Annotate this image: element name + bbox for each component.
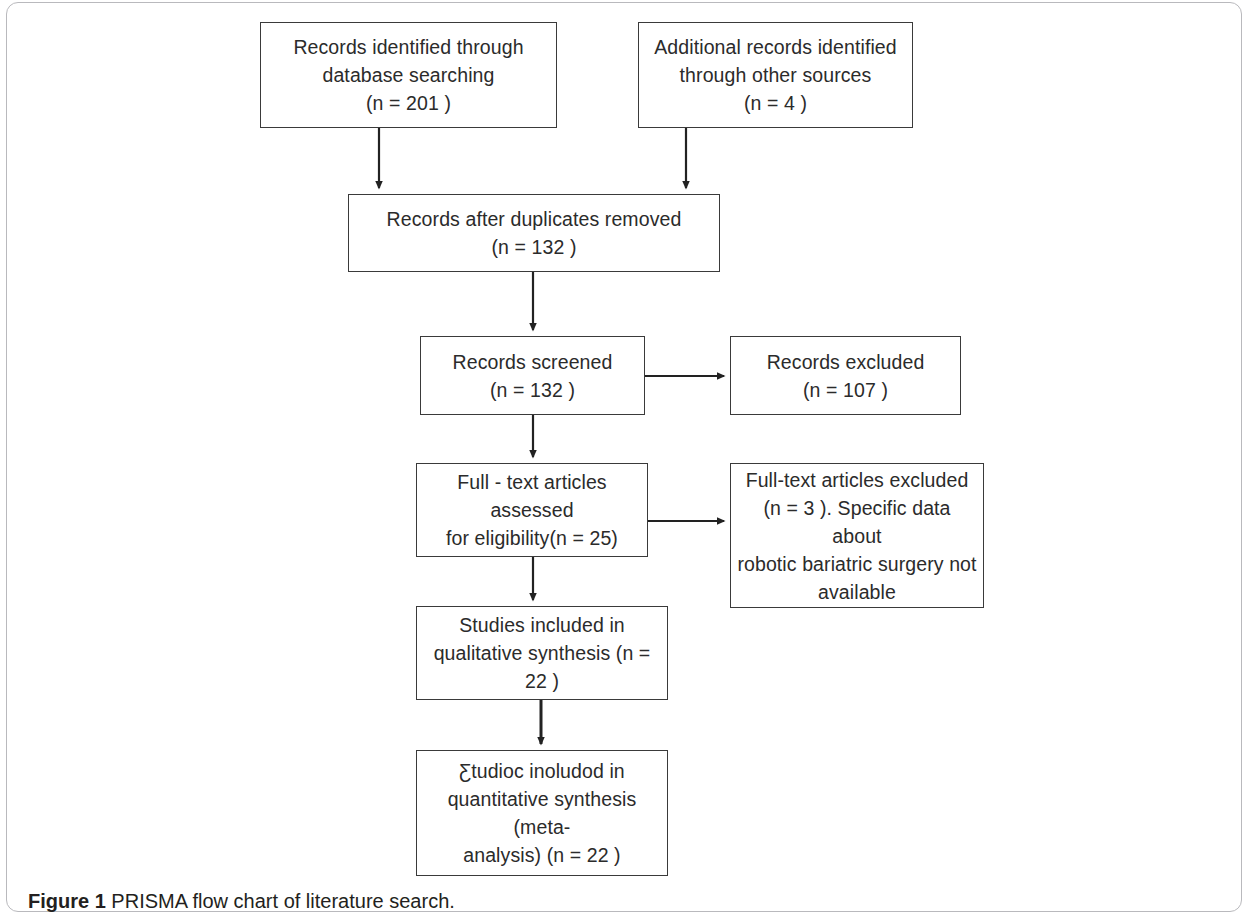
node-fulltext-articles-excluded: Full-text articles excluded (n = 3 ). Sp… [730, 463, 984, 608]
node-records-excluded: Records excluded (n = 107 ) [730, 336, 961, 415]
node-label: Records screened (n = 132 ) [453, 348, 613, 404]
node-label: Records after duplicates removed (n = 13… [387, 205, 682, 261]
node-studies-included-qualitative: Studies included in qualitative synthesi… [416, 606, 668, 700]
node-records-screened: Records screened (n = 132 ) [420, 336, 645, 415]
figure-caption-text: PRISMA flow chart of literature search. [111, 890, 454, 912]
node-label: Full-text articles excluded (n = 3 ). Sp… [737, 466, 977, 606]
node-label: Additional records identified through ot… [654, 33, 896, 117]
node-label: Records excluded (n = 107 ) [767, 348, 925, 404]
node-fulltext-articles-assessed: Full - text articles assessed for eligib… [416, 463, 648, 557]
node-label: Records identified through database sear… [293, 33, 523, 117]
figure-caption-label: Figure 1 [28, 890, 106, 912]
node-label: Ƹtudioc inoludod in quantitative synthes… [423, 757, 661, 869]
node-records-after-duplicates-removed: Records after duplicates removed (n = 13… [348, 194, 720, 272]
figure-caption: Figure 1 PRISMA flow chart of literature… [28, 888, 1128, 914]
node-records-identified-database: Records identified through database sear… [260, 22, 557, 128]
node-label: Studies included in qualitative synthesi… [423, 611, 661, 695]
prisma-figure: Records identified through database sear… [0, 0, 1248, 924]
node-label: Full - text articles assessed for eligib… [423, 468, 641, 552]
node-additional-records-other-sources: Additional records identified through ot… [638, 22, 913, 128]
node-studies-included-quantitative: Ƹtudioc inoludod in quantitative synthes… [416, 750, 668, 876]
